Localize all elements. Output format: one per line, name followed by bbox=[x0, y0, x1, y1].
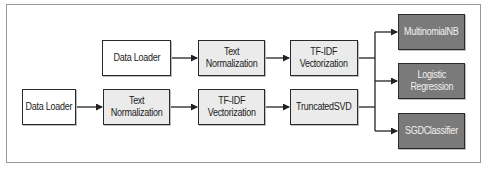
truncated-svd-label: TruncatedSVD bbox=[296, 101, 351, 113]
bottom-tfidf-label: TF-IDF Vectorization bbox=[207, 95, 255, 119]
top-data-loader-node: Data Loader bbox=[102, 40, 171, 76]
logistic-regression-label: Logistic Regression bbox=[410, 69, 453, 93]
top-data-loader-label: Data Loader bbox=[113, 52, 160, 64]
truncated-svd-node: TruncatedSVD bbox=[290, 89, 358, 125]
bottom-data-loader-node: Data Loader bbox=[22, 89, 76, 125]
sgd-classifier-node: SGDClassifier bbox=[398, 113, 465, 149]
logistic-regression-node: Logistic Regression bbox=[398, 63, 465, 99]
top-text-normalization-label: Text Normalization bbox=[206, 46, 258, 70]
multinomial-nb-node: MultinomialNB bbox=[398, 14, 465, 50]
bottom-text-normalization-label: Text Normalization bbox=[111, 95, 163, 119]
sgd-classifier-label: SGDClassifier bbox=[405, 125, 458, 137]
bottom-data-loader-label: Data Loader bbox=[26, 101, 73, 113]
top-tfidf-node: TF-IDF Vectorization bbox=[290, 40, 358, 76]
bottom-text-normalization-node: Text Normalization bbox=[103, 89, 170, 125]
bottom-tfidf-node: TF-IDF Vectorization bbox=[198, 89, 265, 125]
top-tfidf-label: TF-IDF Vectorization bbox=[300, 46, 348, 70]
top-text-normalization-node: Text Normalization bbox=[198, 40, 265, 76]
multinomial-nb-label: MultinomialNB bbox=[404, 26, 459, 38]
